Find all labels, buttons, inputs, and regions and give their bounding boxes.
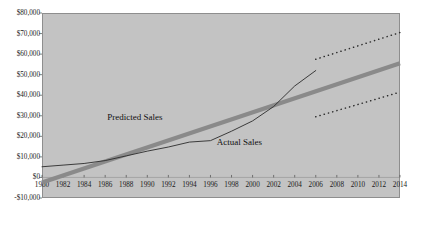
series-line-lower-confidence-band: [316, 92, 400, 117]
chart-container: $80,000$70,000$60,000$50,000$40,000$30,0…: [0, 0, 426, 231]
chart-plot-svg: [0, 0, 426, 231]
series-label-predicted-sales: Predicted Sales: [107, 112, 162, 122]
series-label-actual-sales: Actual Sales: [217, 137, 262, 147]
series-line-actual-sales: [42, 71, 316, 167]
series-line-upper-confidence-band: [316, 33, 400, 60]
series-line-predicted-sales: [42, 63, 400, 182]
